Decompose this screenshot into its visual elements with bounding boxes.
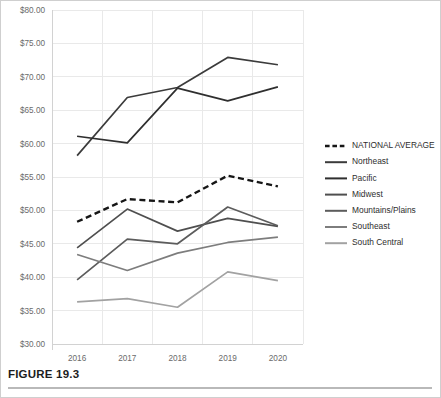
legend-label[interactable]: Mountains/Plains — [352, 205, 416, 215]
legend-label[interactable]: Southeast — [352, 221, 390, 231]
y-tick-label: $50.00 — [20, 206, 45, 215]
chart-legend: NATIONAL AVERAGENortheastPacificMidwestM… — [325, 140, 435, 247]
x-tick-label: 2016 — [68, 354, 87, 363]
y-tick-label: $35.00 — [20, 307, 45, 316]
y-tick-label: $40.00 — [20, 273, 45, 282]
legend-label[interactable]: Pacific — [352, 173, 377, 183]
legend-label[interactable]: Midwest — [352, 189, 383, 199]
y-tick-label: $55.00 — [20, 173, 45, 182]
y-tick-label: $65.00 — [20, 106, 45, 115]
series-line — [77, 237, 278, 270]
x-tick-label: 2019 — [219, 354, 238, 363]
y-tick-label: $80.00 — [20, 6, 45, 15]
x-tick-label: 2017 — [118, 354, 137, 363]
y-tick-label: $45.00 — [20, 240, 45, 249]
x-axis-tick-labels: 20162017201820192020 — [68, 354, 287, 363]
figure-caption: FIGURE 19.3 — [0, 366, 440, 397]
caption-divider-rule — [8, 387, 432, 389]
x-tick-label: 2020 — [269, 354, 288, 363]
x-tick-label: 2018 — [168, 354, 187, 363]
data-series-group — [77, 57, 278, 307]
figure-caption-label: FIGURE 19.3 — [8, 368, 79, 380]
y-tick-label: $70.00 — [20, 73, 45, 82]
legend-label[interactable]: South Central — [352, 237, 403, 247]
y-tick-label: $60.00 — [20, 140, 45, 149]
series-line — [77, 87, 278, 143]
legend-label[interactable]: Northeast — [352, 156, 389, 166]
gridlines — [52, 10, 303, 350]
y-tick-label: $30.00 — [20, 340, 45, 349]
y-tick-label: $75.00 — [20, 39, 45, 48]
chart-canvas: $30.00$35.00$40.00$45.00$50.00$55.00$60.… — [0, 0, 440, 366]
legend-label[interactable]: NATIONAL AVERAGE — [352, 140, 435, 150]
y-axis-tick-labels: $30.00$35.00$40.00$45.00$50.00$55.00$60.… — [20, 6, 45, 349]
line-chart: $30.00$35.00$40.00$45.00$50.00$55.00$60.… — [0, 0, 440, 366]
